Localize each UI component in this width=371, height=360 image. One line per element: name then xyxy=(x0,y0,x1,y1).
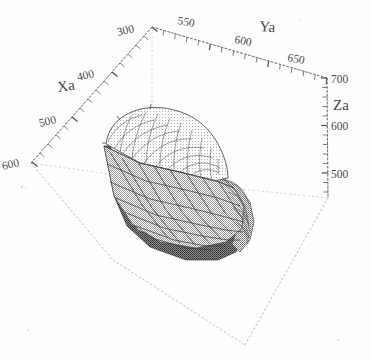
x-tick-label-400: 400 xyxy=(76,67,96,83)
z-axis-line xyxy=(327,78,328,198)
surface-plot-figure: 300 400 500 600 Xa xyxy=(0,0,371,360)
z-axis: 700 600 500 Za xyxy=(321,73,349,198)
z-axis-name: Za xyxy=(333,97,349,113)
z-tick-label-600: 600 xyxy=(331,120,349,132)
x-tick-label-600: 600 xyxy=(1,156,21,172)
y-tick-label-650: 650 xyxy=(287,51,306,66)
y-axis-major-ticks xyxy=(209,44,327,84)
z-tick-label-500: 500 xyxy=(331,168,349,180)
y-axis-name: Ya xyxy=(259,18,276,35)
surface-mesh xyxy=(102,104,254,260)
x-tick-label-300: 300 xyxy=(116,22,136,38)
x-axis-name: Xa xyxy=(56,77,76,95)
box-edge-bottom-left xyxy=(113,260,245,345)
z-tick-label-700: 700 xyxy=(331,73,349,85)
y-tick-label-550: 550 xyxy=(177,14,196,29)
box-edge-bottom-right xyxy=(245,198,328,345)
y-tick-label-600: 600 xyxy=(234,33,253,48)
plot-canvas: 300 400 500 600 Xa xyxy=(0,0,371,360)
box-edge-vertical-left xyxy=(31,163,113,260)
y-axis: 550 600 650 Ya xyxy=(152,14,327,84)
x-tick-label-500: 500 xyxy=(38,113,58,129)
